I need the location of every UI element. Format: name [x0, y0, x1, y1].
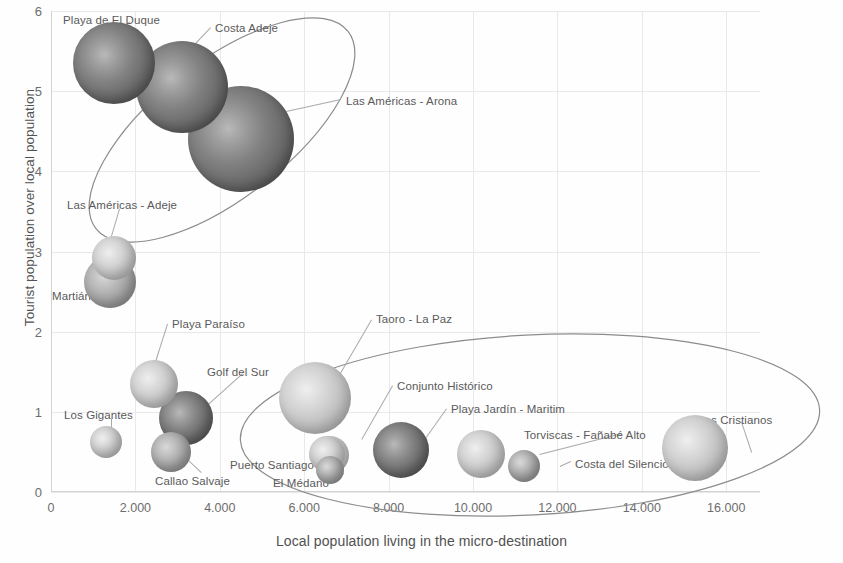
- x-axis-title: Local population living in the micro-des…: [0, 533, 843, 549]
- y-tick-label: 3: [35, 244, 42, 259]
- point-label: Las Américas - Adeje: [67, 199, 177, 211]
- plot-area: 0123456 02.0004.0006.0008.00010.00012.00…: [51, 11, 760, 492]
- x-tick-label: 4.000: [204, 501, 235, 515]
- x-tick-label: 0: [48, 501, 55, 515]
- point-label: Puerto Santiago: [230, 459, 314, 471]
- x-tick-label: 14.000: [623, 501, 661, 515]
- bubble-callao-salvaje[interactable]: [151, 432, 191, 472]
- gridline-horizontal: [51, 11, 760, 12]
- gridline-horizontal: [51, 171, 760, 172]
- x-tick-label: 16.000: [707, 501, 745, 515]
- point-label: Playa Paraíso: [172, 318, 245, 330]
- x-tick-label: 2.000: [120, 501, 151, 515]
- gridline-vertical: [642, 11, 643, 492]
- point-label: Las Américas - Arona: [346, 95, 457, 107]
- point-label: Costa Adeje: [215, 22, 278, 34]
- gridline-horizontal: [51, 492, 760, 493]
- bubble-costa-del-silencio[interactable]: [508, 450, 540, 482]
- bubble-las-americas-adeje[interactable]: [92, 236, 136, 280]
- x-tick-label: 10.000: [454, 501, 492, 515]
- gridline-horizontal: [51, 252, 760, 253]
- bubble-playa-paraiso[interactable]: [130, 360, 178, 408]
- bubble-playa-jardin-maritim[interactable]: [373, 422, 429, 478]
- point-label: Golf del Sur: [207, 366, 269, 378]
- point-label: Conjunto Histórico: [397, 380, 493, 392]
- gridline-horizontal: [51, 332, 760, 333]
- y-tick-label: 1: [35, 404, 42, 419]
- point-label: Callao Salvaje: [155, 475, 230, 487]
- x-tick-label: 12.000: [538, 501, 576, 515]
- point-label: Taoro - La Paz: [376, 313, 452, 325]
- point-label: Los Gigantes: [64, 409, 133, 421]
- bubble-el-medano[interactable]: [316, 456, 344, 484]
- gridline-vertical: [389, 11, 390, 492]
- y-tick-label: 6: [35, 4, 42, 19]
- x-tick-label: 8.000: [373, 501, 404, 515]
- y-tick-label: 0: [35, 485, 42, 500]
- y-tick-label: 2: [35, 324, 42, 339]
- gridline-vertical: [473, 11, 474, 492]
- x-tick-label: 6.000: [289, 501, 320, 515]
- bubble-playa-de-el-duque[interactable]: [73, 22, 155, 104]
- y-tick-label: 4: [35, 164, 42, 179]
- bubble-taoro-la-paz[interactable]: [279, 362, 351, 434]
- bubble-los-gigantes[interactable]: [90, 426, 122, 458]
- point-label: Torviscas - Fañabé Alto: [524, 429, 646, 441]
- gridline-horizontal: [51, 412, 760, 413]
- y-axis-line: [51, 11, 52, 492]
- y-axis-title: Tourist population over local population: [22, 78, 37, 338]
- point-label: Costa del Silencio: [575, 458, 669, 470]
- bubble-los-cristianos[interactable]: [662, 415, 728, 481]
- x-axis-line: [51, 491, 760, 492]
- bubble-chart-figure: Tourist population over local population…: [0, 0, 843, 563]
- gridline-vertical: [557, 11, 558, 492]
- bubble-torviscas-fanabe-alto[interactable]: [457, 430, 505, 478]
- point-label: Playa Jardín - Maritim: [451, 403, 565, 415]
- y-tick-label: 5: [35, 84, 42, 99]
